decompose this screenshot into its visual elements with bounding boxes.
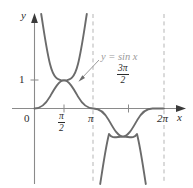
fraction-numerator: 3π xyxy=(117,64,129,75)
fraction-denominator: 2 xyxy=(117,75,129,85)
annotation-leader-line xyxy=(82,60,100,79)
fraction-three-pi-over-two: 3π 2 xyxy=(117,64,129,86)
fraction-denominator: 2 xyxy=(58,123,65,133)
sine-curve-label: y = sin x xyxy=(101,52,138,63)
fraction-numerator: π xyxy=(58,112,65,123)
origin-label: 0 xyxy=(24,113,30,124)
y-tick-label-one: 1 xyxy=(19,74,25,85)
cosecant-branch-upper xyxy=(41,14,87,80)
x-tick-label-pi: π xyxy=(88,113,94,124)
cosecant-sine-graph-figure: y x 1 0 π 2 π 2π 3π 2 y = sin x xyxy=(0,0,193,188)
x-tick-label-pi-over-two: π 2 xyxy=(58,112,65,134)
x-axis-label: x xyxy=(177,112,182,123)
y-axis-arrowhead xyxy=(31,13,38,23)
plot-canvas xyxy=(0,0,193,188)
x-tick-label-three-pi-over-two: 3π 2 xyxy=(117,64,129,86)
cosecant-branch-lower xyxy=(100,134,146,184)
fraction-pi-over-two: π 2 xyxy=(58,112,65,134)
y-axis-label: y xyxy=(21,10,26,21)
x-tick-label-two-pi: 2π xyxy=(157,113,168,124)
